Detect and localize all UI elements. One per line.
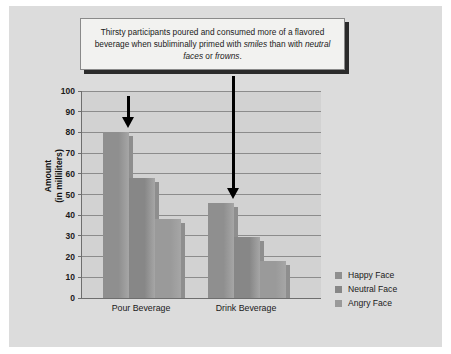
y-gridline	[82, 111, 321, 112]
legend-swatch	[335, 286, 342, 293]
y-tick-label: 90	[66, 107, 75, 117]
y-tick	[78, 111, 82, 112]
bar-face	[129, 178, 155, 298]
figure-container: Thirsty participants poured and consumed…	[9, 6, 442, 347]
legend-item-neutral-face: Neutral Face	[335, 282, 397, 296]
bar-drink-beverage-neutral-face	[234, 237, 260, 298]
y-tick	[78, 235, 82, 236]
y-tick	[78, 298, 82, 299]
legend-item-happy-face: Happy Face	[335, 268, 397, 282]
y-gridline	[82, 91, 321, 92]
plot-area: 0102030405060708090100	[81, 91, 321, 299]
caption-callout: Thirsty participants poured and consumed…	[80, 18, 345, 70]
caption-text: Thirsty participants poured and consumed…	[81, 26, 344, 63]
y-tick	[78, 256, 82, 257]
y-tick-label: 30	[66, 231, 75, 241]
y-tick-label: 60	[66, 169, 75, 179]
x-category-label: Drink Beverage	[186, 303, 306, 313]
x-category-label: Pour Beverage	[81, 303, 201, 313]
legend-swatch	[335, 300, 342, 307]
arrow-pour-happy-shaft	[127, 96, 130, 117]
bar-pour-beverage-angry-face	[155, 219, 181, 298]
bar-face	[208, 203, 234, 298]
arrow-drink-happy-shaft	[232, 76, 235, 188]
caption-segment: than with	[267, 39, 305, 49]
bar-shadow	[286, 265, 290, 298]
bar-face	[103, 132, 129, 298]
y-tick-label: 40	[66, 210, 75, 220]
y-axis-title-sub: (in milliliters)	[54, 149, 64, 202]
y-tick	[78, 215, 82, 216]
y-axis-title: Amount (in milliliters)	[43, 149, 65, 202]
bar-face	[234, 237, 260, 298]
bar-face	[155, 219, 181, 298]
y-tick-label: 70	[66, 148, 75, 158]
y-tick	[78, 194, 82, 195]
y-tick	[78, 173, 82, 174]
y-tick	[78, 91, 82, 92]
y-tick	[78, 153, 82, 154]
caption-segment: or	[203, 51, 215, 61]
bar-shadow	[181, 223, 185, 298]
bar-drink-beverage-happy-face	[208, 203, 234, 298]
chart-legend: Happy FaceNeutral FaceAngry Face	[335, 268, 397, 310]
y-tick	[78, 277, 82, 278]
y-tick-label: 0	[70, 293, 75, 303]
legend-item-angry-face: Angry Face	[335, 296, 397, 310]
caption-segment: smiles	[244, 39, 268, 49]
caption-segment: frowns	[215, 51, 239, 61]
legend-label: Neutral Face	[348, 284, 397, 294]
arrow-drink-happy-head	[227, 188, 239, 199]
y-tick	[78, 132, 82, 133]
caption-segment: .	[239, 51, 241, 61]
arrow-pour-happy-head	[122, 117, 134, 128]
legend-label: Angry Face	[348, 298, 392, 308]
y-tick-label: 50	[66, 190, 75, 200]
legend-swatch	[335, 272, 342, 279]
y-tick-label: 10	[66, 272, 75, 282]
bar-pour-beverage-happy-face	[103, 132, 129, 298]
y-tick-label: 20	[66, 252, 75, 262]
legend-label: Happy Face	[348, 270, 394, 280]
bar-drink-beverage-angry-face	[260, 261, 286, 298]
bar-pour-beverage-neutral-face	[129, 178, 155, 298]
y-axis-title-main: Amount	[43, 160, 53, 192]
y-tick-label: 100	[61, 86, 75, 96]
y-tick-label: 80	[66, 127, 75, 137]
bar-face	[260, 261, 286, 298]
